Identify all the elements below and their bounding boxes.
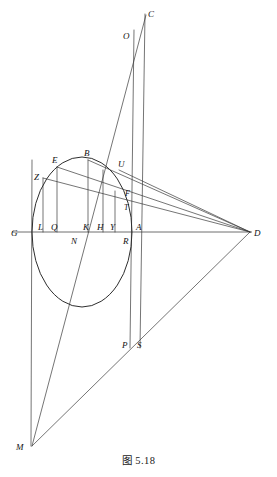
label-point-L: L [37,222,43,232]
label-point-Q: Q [51,222,58,232]
label-point-H: H [96,222,104,232]
figure-caption: 图 5.18 [0,452,277,467]
label-point-Z: Z [34,172,40,182]
label-point-M: M [15,442,24,452]
label-point-D: D [253,228,261,238]
label-point-K: K [82,222,90,232]
label-point-G: G [11,228,18,238]
label-point-F: F [124,189,130,198]
figure-container: C O B E U Z F T G L Q K H Y N R A D P S … [0,0,277,477]
label-point-N: N [70,236,78,246]
label-point-B: B [84,148,90,158]
label-point-U: U [118,159,125,169]
label-point-O: O [123,31,130,41]
line-vertical-OP [130,30,134,348]
point-labels: C O B E U Z F T G L Q K H Y N R A D P S … [11,9,261,452]
label-point-P: P [121,340,128,350]
label-point-C: C [148,9,155,19]
geometry-diagram: C O B E U Z F T G L Q K H Y N R A D P S … [0,0,277,477]
label-point-T: T [124,203,129,212]
label-point-S: S [137,340,142,350]
label-point-A: A [135,222,142,232]
line-vertical-GM [31,160,32,446]
label-point-R: R [122,236,129,246]
label-point-E: E [51,155,58,165]
